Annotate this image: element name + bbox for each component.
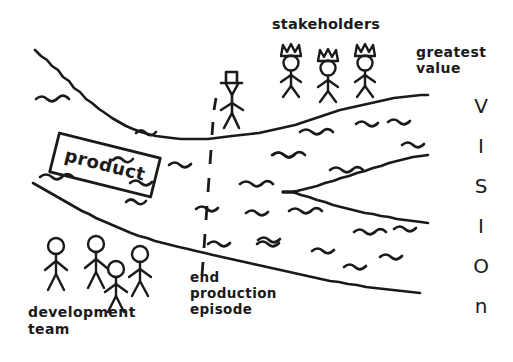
stick-figure-icon: [85, 236, 107, 288]
water-ripple-squiggle-icon: [240, 181, 273, 186]
sketch-canvas: product stakeholders greatestvalue endpr…: [0, 0, 513, 362]
water-ripple-squiggle-icon: [126, 200, 146, 205]
water-ripple-squiggle-icon: [36, 96, 69, 102]
water-ripple-squiggle-icon: [272, 152, 305, 157]
vision-letter-4: O: [473, 256, 489, 276]
stakeholders-label: stakeholders: [272, 16, 380, 32]
water-ripple-squiggle-icon: [136, 131, 156, 136]
vision-letter-5: n: [475, 296, 488, 316]
stick-figure-icon: [45, 238, 67, 290]
water-ripple-squiggle-icon: [300, 129, 333, 134]
development-team-label: developmentteam: [28, 304, 136, 337]
end-production-episode-label: endproductionepisode: [190, 270, 277, 318]
dev-team-line2: team: [28, 321, 70, 337]
crowned-stick-figure-icon: [281, 44, 301, 97]
vision-vertical-word: VISIOn: [466, 96, 496, 336]
water-ripple-squiggle-icon: [246, 211, 268, 216]
water-ripple-squiggle-icon: [312, 249, 334, 254]
water-ripple-squiggle-icon: [169, 163, 191, 168]
river-inner-channel-lower-icon: [293, 192, 428, 223]
crowned-stick-figure-icon: [318, 49, 338, 102]
stick-figure-with-hat-icon: [221, 72, 243, 128]
water-ripple-squiggle-icon: [380, 255, 402, 260]
water-ripple-squiggle-icon: [208, 242, 230, 247]
water-ripple-squiggle-icon: [356, 122, 378, 127]
dev-team-line1: development: [28, 304, 136, 320]
water-ripple-squiggle-icon: [388, 120, 410, 125]
end-episode-line2: production: [190, 285, 277, 301]
crowned-stick-figure-icon: [355, 44, 375, 97]
water-ripple-squiggle-icon: [289, 208, 322, 213]
end-episode-dashed-line-icon: [202, 98, 216, 275]
water-ripple-squiggle-icon: [402, 143, 424, 148]
vision-letter-3: I: [478, 216, 484, 236]
greatest-value-label: greatestvalue: [416, 44, 486, 76]
water-ripple-squiggle-icon: [394, 227, 416, 232]
greatest-value-line1: greatest: [416, 44, 486, 60]
stick-figure-icon: [129, 246, 151, 296]
river-inner-channel-upper-icon: [293, 155, 428, 192]
end-episode-line3: episode: [190, 301, 252, 317]
greatest-value-line2: value: [416, 60, 461, 76]
water-ripple-squiggle-icon: [354, 229, 386, 234]
vision-letter-2: S: [475, 176, 488, 196]
vision-letter-1: I: [478, 136, 484, 156]
water-ripple-squiggle-icon: [344, 265, 366, 270]
end-episode-line1: end: [190, 269, 220, 285]
vision-letter-0: V: [474, 96, 488, 116]
